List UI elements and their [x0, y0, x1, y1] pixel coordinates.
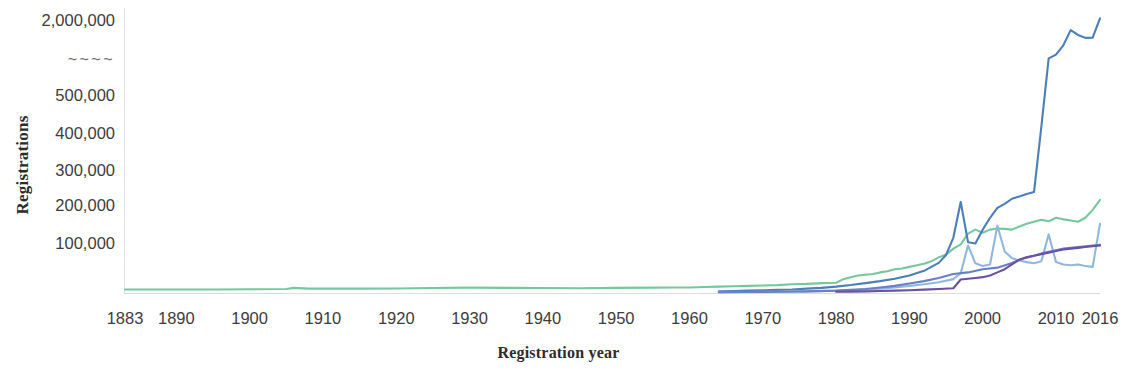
x-axis-line [124, 293, 1100, 294]
x-axis-tick-label: 1960 [649, 310, 729, 327]
x-axis-tick-label: 1940 [503, 310, 583, 327]
series-lines [125, 8, 1100, 293]
x-axis-title: Registration year [0, 344, 1117, 362]
x-axis-tick-label: 1900 [210, 310, 290, 327]
x-axis-tick-label: 1890 [136, 310, 216, 327]
y-axis-break-marker: ~~~~ [0, 52, 115, 68]
series-green [125, 200, 1100, 290]
y-axis-tick-label: 200,000 [0, 197, 115, 214]
x-axis-tick-label: 1920 [356, 310, 436, 327]
x-axis-tick-label: 1990 [869, 310, 949, 327]
y-axis-tick-label: 2,000,000 [0, 12, 115, 29]
plot-area [125, 8, 1100, 293]
x-axis-tick-label: 1980 [796, 310, 876, 327]
x-axis-tick-label: 1950 [576, 310, 656, 327]
y-axis-tick-label: 500,000 [0, 87, 115, 104]
x-axis-tick-label: 2000 [943, 310, 1023, 327]
y-axis-tick-label: 400,000 [0, 125, 115, 142]
series-steel-blue [719, 18, 1100, 291]
x-axis-tick-label: 1930 [430, 310, 510, 327]
y-axis-tick-label: 100,000 [0, 235, 115, 252]
x-axis-tick-label: 2016 [1060, 310, 1123, 327]
x-axis-tick-label: 1970 [723, 310, 803, 327]
y-axis-tick-label: 300,000 [0, 162, 115, 179]
series-purple [836, 245, 1100, 291]
series-light-blue [719, 224, 1100, 293]
x-axis-tick-label: 1910 [283, 310, 363, 327]
